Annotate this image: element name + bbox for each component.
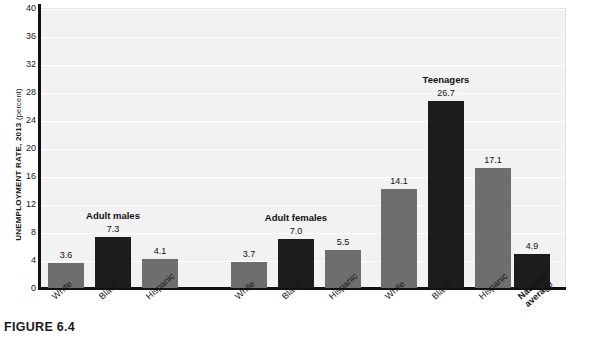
y-tick-label: 24 [2, 115, 36, 125]
y-tick-label: 28 [2, 87, 36, 97]
y-tick-label: 8 [2, 227, 36, 237]
bar-teenagers-white [381, 189, 417, 288]
y-tick-label: 16 [2, 171, 36, 181]
bar-value-label: 14.1 [390, 176, 408, 186]
bar-value-label: 3.6 [60, 250, 73, 260]
y-tick-label: 12 [2, 199, 36, 209]
bar-value-label: 7.0 [290, 226, 303, 236]
y-tick-label: 32 [2, 59, 36, 69]
x-axis-ticks: WhiteBlackHispanicWhiteBlackHispanicWhit… [41, 292, 566, 340]
bars-layer: 3.67.34.1Adult males3.77.05.5Adult femal… [41, 8, 566, 288]
bar-value-label: 26.7 [437, 88, 455, 98]
y-tick-label: 4 [2, 255, 36, 265]
figure-6-4: UNEMPLOYMENT RATE, 2013 (percent) 048121… [0, 0, 591, 340]
bar-teenagers-black [428, 101, 464, 288]
bar-value-label: 17.1 [484, 155, 502, 165]
y-tick-label: 36 [2, 31, 36, 41]
figure-caption: FIGURE 6.4 [4, 320, 75, 334]
bar-value-label: 5.5 [337, 237, 350, 247]
group-label-adult-males: Adult males [86, 210, 140, 221]
y-axis-ticks: 0481216202428323640 [0, 0, 36, 340]
bar-value-label: 4.1 [154, 246, 167, 256]
y-tick-label: 20 [2, 143, 36, 153]
y-tick-label: 40 [2, 3, 36, 13]
group-label-adult-females: Adult females [265, 212, 327, 223]
y-tick-label: 0 [2, 283, 36, 293]
bar-value-label: 4.9 [526, 241, 539, 251]
group-label-teenagers: Teenagers [423, 74, 470, 85]
bar-teenagers-hispanic [475, 168, 511, 288]
bar-value-label: 3.7 [243, 249, 256, 259]
bar-value-label: 7.3 [107, 224, 120, 234]
